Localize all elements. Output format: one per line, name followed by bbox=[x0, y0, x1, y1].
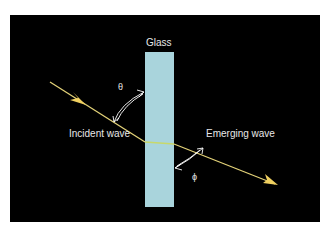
emerging-ray bbox=[174, 144, 275, 184]
phi-label: ϕ bbox=[192, 172, 197, 182]
glass-slab bbox=[145, 52, 174, 207]
refraction-diagram bbox=[0, 0, 327, 235]
glass-label: Glass bbox=[146, 37, 172, 48]
emerging-wave-label: Emerging wave bbox=[206, 128, 275, 139]
incident-arrow-icon bbox=[70, 92, 86, 105]
theta-angle-arc-icon bbox=[113, 90, 144, 122]
phi-angle-arc-icon bbox=[175, 148, 203, 170]
theta-label: θ bbox=[118, 82, 123, 92]
incident-wave-label: Incident wave bbox=[69, 128, 130, 139]
